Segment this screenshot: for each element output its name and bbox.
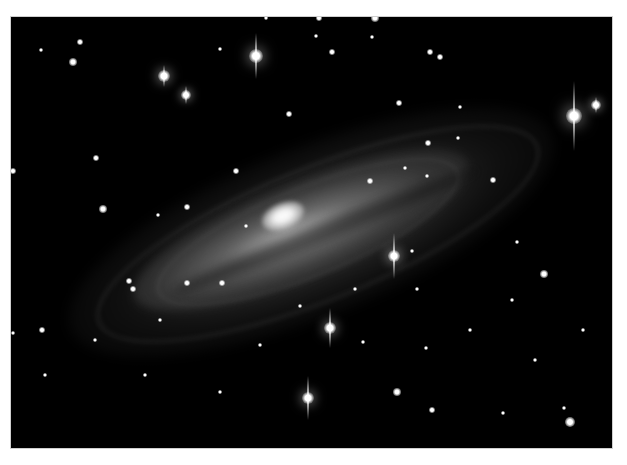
star xyxy=(429,407,435,413)
star xyxy=(456,136,460,140)
star xyxy=(501,411,505,415)
star xyxy=(581,328,585,332)
star xyxy=(425,174,429,178)
star xyxy=(99,205,107,213)
star xyxy=(425,140,431,146)
star xyxy=(143,373,147,377)
star xyxy=(367,178,373,184)
bright-star xyxy=(302,392,314,404)
star xyxy=(314,34,318,38)
bright-star xyxy=(249,49,263,63)
star xyxy=(361,340,365,344)
star xyxy=(316,17,322,21)
star xyxy=(264,17,268,20)
star xyxy=(156,213,160,217)
star xyxy=(39,48,43,52)
galaxy-photo xyxy=(11,17,612,448)
bright-star xyxy=(591,100,601,110)
star xyxy=(510,298,514,302)
star xyxy=(540,270,548,278)
star xyxy=(562,406,566,410)
bright-star xyxy=(158,70,170,82)
star xyxy=(184,204,190,210)
star xyxy=(410,249,414,253)
star xyxy=(396,100,402,106)
star xyxy=(39,327,45,333)
star xyxy=(11,331,15,335)
star xyxy=(403,166,407,170)
star xyxy=(286,111,292,117)
star xyxy=(43,373,47,377)
star xyxy=(370,35,374,39)
star xyxy=(158,318,162,322)
star xyxy=(371,17,379,22)
star xyxy=(490,177,496,183)
star xyxy=(77,39,83,45)
star xyxy=(244,224,248,228)
star xyxy=(393,388,401,396)
star xyxy=(233,168,239,174)
star xyxy=(126,278,132,284)
star xyxy=(218,390,222,394)
star xyxy=(219,280,225,286)
star xyxy=(258,343,262,347)
star xyxy=(533,358,537,362)
star xyxy=(69,58,77,66)
star xyxy=(415,287,419,291)
star xyxy=(353,287,357,291)
star xyxy=(11,168,16,174)
bright-star xyxy=(388,250,400,262)
star xyxy=(93,155,99,161)
star xyxy=(298,304,302,308)
bright-star xyxy=(324,322,336,334)
star xyxy=(130,286,136,292)
star xyxy=(565,417,575,427)
star xyxy=(424,346,428,350)
bright-star xyxy=(181,90,191,100)
star xyxy=(437,54,443,60)
star xyxy=(184,280,190,286)
star xyxy=(427,49,433,55)
star xyxy=(218,47,222,51)
star xyxy=(93,338,97,342)
star xyxy=(458,105,462,109)
bright-star xyxy=(566,108,582,124)
star xyxy=(515,240,519,244)
star xyxy=(329,49,335,55)
star xyxy=(468,328,472,332)
